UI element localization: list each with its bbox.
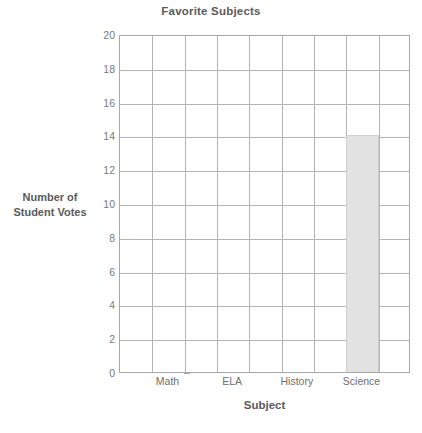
y-axis-tick-label: 6 xyxy=(75,266,115,278)
y-axis-tick-label: 18 xyxy=(75,63,115,75)
x-axis-title: Subject xyxy=(119,399,410,411)
y-axis-tick-label: 14 xyxy=(75,130,115,142)
x-axis-tick-label: Math xyxy=(156,375,179,387)
y-axis-tick-label: 10 xyxy=(75,198,115,210)
x-axis-tick-label: ELA xyxy=(222,375,242,387)
y-axis-tick-label: 12 xyxy=(75,164,115,176)
y-axis-tick-label: 4 xyxy=(75,299,115,311)
y-axis-tick-label: 8 xyxy=(75,232,115,244)
x-axis-tick-label: History xyxy=(280,375,313,387)
y-axis-ticks: 02468101214161820 xyxy=(71,35,115,373)
y-axis-tick-label: 0 xyxy=(75,367,115,379)
bar-science xyxy=(346,135,378,372)
x-axis-ticks: MathELAHistoryScience xyxy=(119,374,410,392)
y-axis-tick-label: 20 xyxy=(75,29,115,41)
y-axis-tick-label: 2 xyxy=(75,333,115,345)
x-axis-tick-label: Science xyxy=(343,375,380,387)
chart-title: Favorite Subjects xyxy=(0,5,422,17)
plot-area xyxy=(119,35,410,373)
y-axis-tick-label: 16 xyxy=(75,97,115,109)
bars-layer xyxy=(120,36,409,372)
